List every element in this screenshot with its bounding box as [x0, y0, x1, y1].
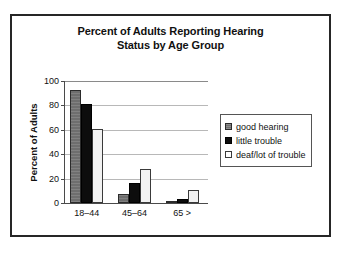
legend-item-little-trouble: little trouble	[225, 134, 306, 147]
bar-4564-2	[140, 169, 151, 203]
y-tick-60	[61, 130, 65, 131]
legend-item-deaf-lot-of-trouble: deaf/lot of trouble	[225, 148, 306, 161]
chart-title: Percent of Adults Reporting Hearing Stat…	[12, 24, 329, 52]
legend-swatch-deaf-lot-of-trouble	[225, 151, 232, 158]
y-tick-80	[61, 105, 65, 106]
y-tick-label-100: 100	[44, 76, 59, 86]
bar-1844-2	[92, 129, 103, 203]
bar-group-0	[70, 81, 103, 203]
chart-legend: good hearing little trouble deaf/lot of …	[220, 114, 312, 167]
x-tick-label-2: 65 >	[173, 208, 191, 218]
y-tick-label-80: 80	[49, 100, 59, 110]
x-tick-label-0: 18–44	[74, 208, 99, 218]
x-tick-label-1: 45–64	[122, 208, 147, 218]
legend-swatch-good-hearing	[225, 123, 232, 130]
y-tick-label-60: 60	[49, 125, 59, 135]
plot-area: 02040608010018–4445–6465 >	[64, 81, 208, 204]
y-axis-title-label: Percent of Adults	[28, 103, 39, 181]
y-tick-label-20: 20	[49, 174, 59, 184]
y-tick-label-0: 0	[54, 198, 59, 208]
y-axis-title: Percent of Adults	[26, 81, 40, 203]
legend-label-little-trouble: little trouble	[236, 136, 282, 146]
legend-item-good-hearing: good hearing	[225, 120, 306, 133]
legend-label-good-hearing: good hearing	[236, 122, 289, 132]
bar-group-2	[166, 81, 199, 203]
legend-swatch-little-trouble	[225, 137, 232, 144]
y-tick-100	[61, 81, 65, 82]
y-tick-20	[61, 179, 65, 180]
bar-65-1	[177, 199, 188, 203]
bar-4564-0	[118, 194, 129, 203]
bar-65-2	[188, 190, 199, 203]
bar-1844-0	[70, 90, 81, 203]
chart-title-line-2: Status by Age Group	[12, 38, 329, 52]
bar-4564-1	[129, 183, 140, 203]
y-tick-40	[61, 154, 65, 155]
y-tick-0	[61, 203, 65, 204]
y-tick-label-40: 40	[49, 149, 59, 159]
bar-65-0	[166, 201, 177, 203]
bar-group-1	[118, 81, 151, 203]
chart-title-line-1: Percent of Adults Reporting Hearing	[12, 24, 329, 38]
bar-1844-1	[81, 104, 92, 203]
figure-frame: Percent of Adults Reporting Hearing Stat…	[10, 14, 331, 237]
legend-label-deaf-lot-of-trouble: deaf/lot of trouble	[236, 150, 306, 160]
